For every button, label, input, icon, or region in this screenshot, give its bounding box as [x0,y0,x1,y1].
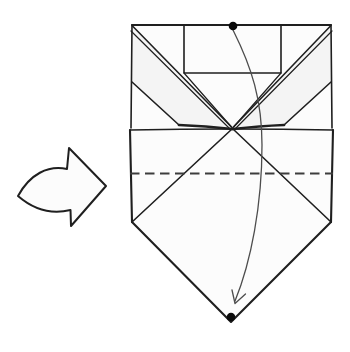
origami-diagram [0,0,350,352]
upper-right-edge [331,25,332,128]
next-step-arrow-icon [18,148,106,226]
upper-left-edge [131,25,132,128]
top-reference-dot [229,22,238,31]
origami-model [130,25,333,322]
origami-diagram-canvas [0,0,350,352]
bottom-reference-dot [227,313,236,322]
